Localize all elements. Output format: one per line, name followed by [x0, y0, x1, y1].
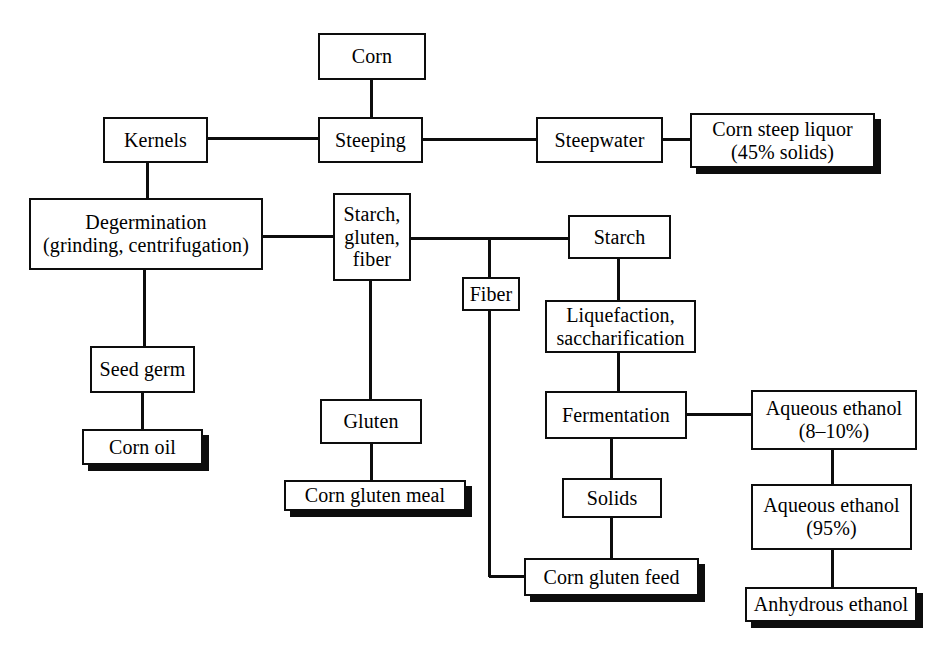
node-label-starch-gluten-fiber: Starch, gluten, fiber	[344, 203, 401, 271]
node-liquefaction: Liquefaction, saccharification	[545, 300, 696, 353]
node-label-kernels: Kernels	[124, 129, 187, 152]
node-label-fiber: Fiber	[470, 283, 513, 306]
node-label-fermentation: Fermentation	[562, 404, 670, 427]
connector-junction-to-fiber	[488, 238, 491, 278]
connector-seedgerm-to-cornoil	[141, 393, 144, 430]
connector-degermination-to-seedgerm	[143, 270, 146, 347]
node-degermination: Degermination (grinding, centrifugation)	[29, 198, 263, 270]
connector-kernels-to-steeping	[208, 137, 318, 140]
node-solids: Solids	[562, 478, 662, 518]
node-steeping: Steeping	[318, 117, 423, 163]
connector-degermination-to-sgf	[263, 235, 333, 238]
node-fiber: Fiber	[462, 277, 520, 311]
node-label-corn: Corn	[352, 45, 392, 68]
connector-sgf-to-gluten	[369, 281, 372, 400]
node-starch: Starch	[568, 215, 671, 259]
node-starch-gluten-fiber: Starch, gluten, fiber	[333, 193, 411, 281]
flowchart-canvas: CornKernelsSteepingSteepwaterCorn steep …	[0, 0, 948, 645]
node-aqueous-ethanol-95: Aqueous ethanol (95%)	[751, 484, 912, 550]
node-label-anhydrous-ethanol: Anhydrous ethanol	[754, 593, 908, 616]
node-corn-steep-liquor: Corn steep liquor (45% solids)	[690, 113, 875, 168]
node-label-corn-gluten-feed: Corn gluten feed	[543, 566, 679, 589]
connector-fermentation-to-solids	[610, 439, 613, 479]
node-label-corn-oil: Corn oil	[109, 436, 176, 459]
node-label-gluten: Gluten	[343, 410, 398, 433]
node-steepwater: Steepwater	[536, 117, 663, 163]
node-gluten: Gluten	[320, 399, 422, 444]
node-label-corn-steep-liquor: Corn steep liquor (45% solids)	[712, 118, 853, 163]
connector-solids-to-feed	[610, 518, 613, 559]
connector-fermentation-to-ethanol8	[687, 413, 751, 416]
node-label-steeping: Steeping	[335, 129, 406, 152]
node-corn: Corn	[318, 33, 426, 80]
connector-steeping-to-steepwater	[423, 138, 536, 141]
connector-steepwater-to-liquor	[663, 138, 690, 141]
node-aqueous-ethanol-8: Aqueous ethanol (8–10%)	[751, 390, 917, 450]
node-seed-germ: Seed germ	[90, 346, 195, 393]
node-label-aqueous-ethanol-95: Aqueous ethanol (95%)	[763, 494, 899, 539]
node-corn-gluten-meal: Corn gluten meal	[284, 480, 466, 511]
connector-starch-to-liquefaction	[617, 259, 620, 301]
connector-ethanol8-to-ethanol95	[831, 450, 834, 485]
node-label-starch: Starch	[594, 226, 646, 249]
connector-liquefaction-to-fermentation	[617, 353, 620, 392]
node-label-steepwater: Steepwater	[555, 129, 645, 152]
node-anhydrous-ethanol: Anhydrous ethanol	[745, 587, 917, 622]
node-label-solids: Solids	[587, 487, 638, 510]
node-corn-oil: Corn oil	[82, 429, 203, 465]
node-label-seed-germ: Seed germ	[100, 358, 186, 381]
connector-fiber-to-feed	[489, 575, 526, 578]
node-label-aqueous-ethanol-8: Aqueous ethanol (8–10%)	[766, 397, 902, 442]
connector-fiber-to-feed	[488, 311, 491, 577]
connector-corn-to-steeping	[370, 80, 373, 117]
node-kernels: Kernels	[103, 117, 208, 163]
connector-gluten-to-meal	[370, 444, 373, 481]
node-label-liquefaction: Liquefaction, saccharification	[556, 304, 684, 349]
connector-ethanol95-to-anhydrous	[831, 550, 834, 588]
node-label-degermination: Degermination (grinding, centrifugation)	[43, 211, 249, 256]
connector-kernels-to-degermination	[146, 163, 149, 199]
node-corn-gluten-feed: Corn gluten feed	[524, 558, 699, 596]
node-fermentation: Fermentation	[545, 391, 687, 439]
node-label-corn-gluten-meal: Corn gluten meal	[305, 484, 445, 507]
